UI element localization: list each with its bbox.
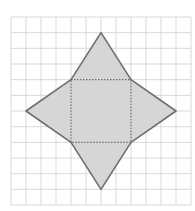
star-net-shape bbox=[26, 33, 176, 190]
grid-diagram bbox=[0, 0, 195, 211]
